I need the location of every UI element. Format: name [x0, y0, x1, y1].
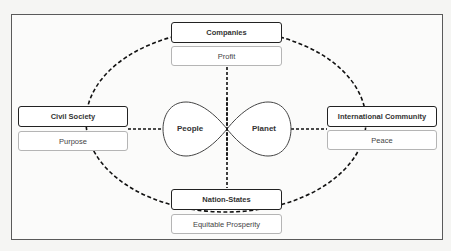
nation-states-label: Nation-States	[202, 195, 250, 204]
international-community-box: International Community	[327, 106, 437, 127]
companies-label: Companies	[206, 28, 246, 37]
profit-box: Profit	[171, 46, 282, 66]
purpose-box: Purpose	[18, 131, 128, 151]
civil-society-label: Civil Society	[51, 112, 96, 121]
civil-society-box: Civil Society	[18, 106, 128, 127]
equitable-prosperity-label: Equitable Prosperity	[193, 220, 260, 229]
peace-label: Peace	[371, 136, 392, 145]
diagram-page: People Planet Companies Profit Civil Soc…	[0, 0, 451, 251]
purpose-label: Purpose	[59, 137, 87, 146]
profit-label: Profit	[218, 52, 236, 61]
nation-states-box: Nation-States	[171, 189, 282, 210]
international-community-label: International Community	[338, 112, 426, 121]
equitable-prosperity-box: Equitable Prosperity	[171, 214, 282, 234]
planet-label: Planet	[252, 124, 276, 133]
peace-box: Peace	[327, 130, 437, 150]
companies-box: Companies	[171, 22, 282, 43]
people-label: People	[177, 124, 203, 133]
